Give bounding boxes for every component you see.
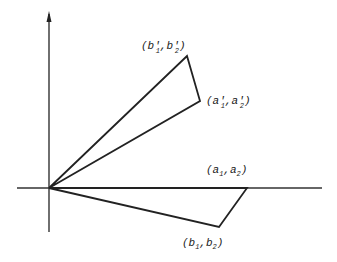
label-a: (a1,a2) <box>206 164 247 178</box>
lower-triangle <box>49 188 247 227</box>
upper-triangle <box>49 56 200 188</box>
label-a-prime: (a′1,a′2) <box>206 95 251 110</box>
vector-diagram: (b′1,b′2) (a′1,a′2) (a1,a2) (b1,b2) <box>0 0 337 262</box>
label-b-prime: (b′1,b′2) <box>141 40 186 55</box>
y-axis-arrow-icon <box>47 11 52 22</box>
label-b: (b1,b2) <box>182 237 223 251</box>
